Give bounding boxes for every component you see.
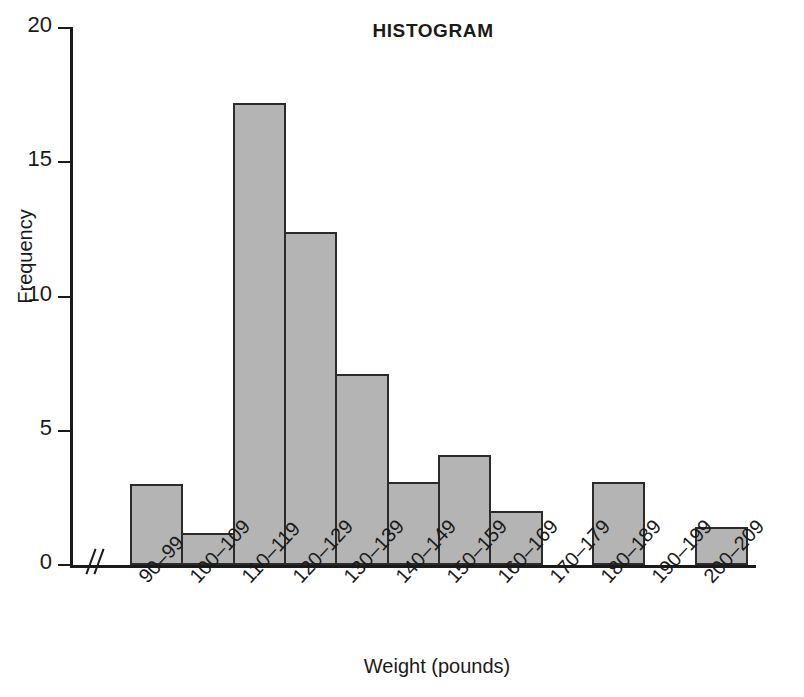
y-axis-tick-label: 20 — [0, 14, 52, 36]
y-axis-title: Frequency — [14, 127, 37, 387]
y-axis-tick-label: 0 — [0, 551, 52, 573]
y-axis-tick-label: 5 — [0, 417, 52, 439]
plot-area — [70, 28, 756, 565]
histogram-bar — [284, 232, 337, 565]
histogram-chart: HISTOGRAM 05101520 Frequency 90–99100–10… — [0, 0, 804, 697]
x-axis-title: Weight (pounds) — [0, 655, 804, 678]
histogram-bar — [233, 103, 286, 565]
